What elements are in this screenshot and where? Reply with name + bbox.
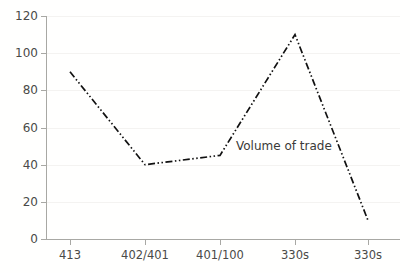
x-tick-3 <box>295 240 296 245</box>
y-tick-40 <box>41 165 46 166</box>
y-tick-label-120: 120 <box>0 10 38 22</box>
x-tick-2 <box>220 240 221 245</box>
x-tick-label-0: 413 <box>59 250 81 262</box>
y-tick-0 <box>41 239 46 240</box>
y-tick-label-100: 100 <box>0 47 38 59</box>
y-tick-label-0: 0 <box>0 233 38 245</box>
x-tick-1 <box>145 240 146 245</box>
gridline-100 <box>46 53 400 54</box>
y-axis-line <box>46 16 47 240</box>
y-tick-label-20: 20 <box>0 196 38 208</box>
annotation-volume-of-trade: Volume of trade <box>236 140 332 152</box>
y-tick-label-60: 60 <box>0 122 38 134</box>
gridline-80 <box>46 90 400 91</box>
x-tick-label-1: 402/401 <box>121 250 169 262</box>
x-tick-4 <box>368 240 369 245</box>
x-tick-0 <box>70 240 71 245</box>
gridline-20 <box>46 202 400 203</box>
gridline-40 <box>46 165 400 166</box>
x-tick-label-4: 330s <box>354 250 382 262</box>
y-tick-120 <box>41 16 46 17</box>
y-tick-80 <box>41 90 46 91</box>
y-tick-20 <box>41 202 46 203</box>
gridline-120 <box>46 16 400 17</box>
plot-area <box>46 16 400 239</box>
x-tick-label-2: 401/100 <box>196 250 244 262</box>
y-tick-label-80: 80 <box>0 84 38 96</box>
y-tick-60 <box>41 128 46 129</box>
y-tick-label-40: 40 <box>0 159 38 171</box>
x-tick-label-3: 330s <box>281 250 309 262</box>
y-tick-100 <box>41 53 46 54</box>
line-chart: 120 100 80 60 40 20 0 413 402/401 401/10… <box>0 0 410 273</box>
x-axis-line <box>46 239 400 240</box>
gridline-60 <box>46 128 400 129</box>
